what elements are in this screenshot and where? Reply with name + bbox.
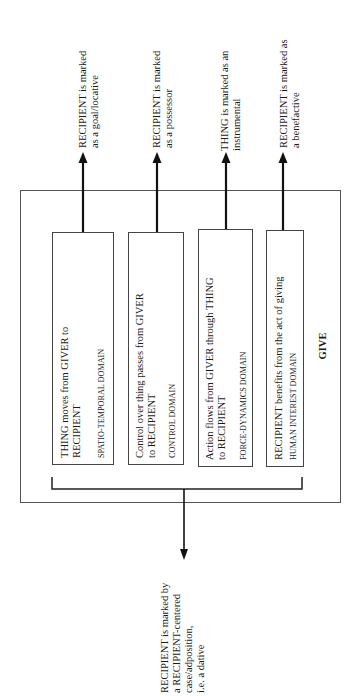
arrow-up-icon (79, 152, 88, 163)
domain-control: Control over thing passes from GIVER to … (129, 50, 184, 464)
outcome-line: RECIPIENT is marked as (278, 39, 289, 148)
domain-human-interest: RECIPIENT benefits from the act of givin… (267, 39, 304, 466)
arrow-up-icon (153, 152, 162, 163)
arrow-down-icon (180, 549, 188, 560)
outcome-line: as a possessor (163, 89, 174, 148)
give-domains-diagram: GIVE THING moves from GIVER to RECIPIENT… (0, 0, 354, 696)
domain-description-line: RECIPIENT (71, 404, 82, 458)
outcome-line: THING is marked as an (219, 50, 230, 151)
domain-description-line: THING moves from GIVER to (59, 327, 70, 458)
give-title: GIVE (317, 333, 328, 360)
domain-description-line: to RECIPIENT (146, 393, 157, 458)
combined-outcome-line: i.e. a dative (195, 644, 206, 693)
domain-force-dynamics: Action flows from GIVER through THING to… (199, 50, 253, 467)
outcome-line: RECIPIENT is marked (151, 50, 162, 148)
domain-label: FORCE-DYNAMICS DOMAIN (239, 351, 248, 460)
outcome-line: as a goal/locative (89, 75, 100, 148)
combined-outcome-line: a RECIPIENT-centered (171, 593, 182, 693)
outcome-line: RECIPIENT is marked (77, 50, 88, 148)
domain-label: HUMAN INTEREST DOMAIN (289, 353, 298, 460)
arrow-up-icon (222, 152, 231, 163)
domain-description-line: Control over thing passes from GIVER (134, 293, 145, 458)
domain-label: CONTROL DOMAIN (168, 384, 177, 458)
combined-outcome: RECIPIENT is marked by a RECIPIENT-cente… (159, 582, 206, 693)
domain-description-line: Action flows from GIVER through THING (204, 277, 215, 460)
domain-description-line: RECIPIENT benefits from the act of givin… (273, 276, 284, 460)
outcome-line: a benefactive (290, 92, 301, 148)
arrow-up-icon (279, 152, 288, 163)
domains-bracket (52, 477, 302, 489)
domain-label: SPATIO-TEMPORAL DOMAIN (97, 349, 106, 458)
domain-spatio-temporal: THING moves from GIVER to RECIPIENT SPAT… (53, 50, 114, 464)
outcome-line: instrumental (231, 98, 242, 151)
combined-outcome-line: case/adposition, (183, 626, 194, 693)
combined-outcome-line: RECIPIENT is marked by (159, 582, 170, 693)
domain-description-line: to RECIPIENT (216, 395, 227, 460)
